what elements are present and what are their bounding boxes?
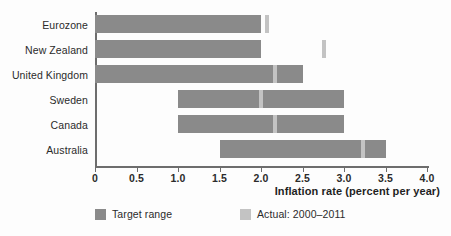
bar-target-range-new-zealand: [95, 40, 261, 58]
x-axis-tick-label-0: 0: [92, 172, 98, 184]
x-axis-tick-label-3-5: 3.5: [378, 172, 393, 184]
bar-row-sweden: [0, 90, 451, 108]
bar-target-range-eurozone: [95, 15, 261, 33]
bar-target-range-united-kingdom: [95, 65, 303, 83]
bar-row-eurozone: [0, 15, 451, 33]
x-axis-tick-label-1-0: 1.0: [170, 172, 185, 184]
bar-actual-marker-eurozone: [265, 15, 269, 33]
x-axis-tick-label-1-5: 1.5: [212, 172, 227, 184]
x-axis-tick-label-0-5: 0.5: [129, 172, 144, 184]
legend-item-actual: Actual: 2000–2011: [240, 206, 346, 222]
bar-row-australia: [0, 140, 451, 158]
legend-swatch-actual-icon: [240, 209, 251, 220]
legend-label-actual: Actual: 2000–2011: [257, 208, 346, 220]
bar-actual-marker-united-kingdom: [273, 65, 277, 83]
x-axis-tick-label-4-0: 4.0: [419, 172, 434, 184]
x-axis-tick-label-2-5: 2.5: [295, 172, 310, 184]
x-axis-tick-label-3-0: 3.0: [336, 172, 351, 184]
bar-actual-marker-canada: [273, 115, 277, 133]
bar-actual-marker-sweden: [259, 90, 263, 108]
x-axis-title: Inflation rate (percent per year): [0, 185, 440, 197]
x-axis-tick-label-2-0: 2.0: [253, 172, 268, 184]
bar-row-canada: [0, 115, 451, 133]
bar-row-united-kingdom: [0, 65, 451, 83]
bar-row-new-zealand: [0, 40, 451, 58]
inflation-rate-chart: Eurozone New Zealand United Kingdom Swed…: [0, 0, 451, 236]
legend-item-target-range: Target range: [95, 206, 172, 222]
chart-legend: Target range Actual: 2000–2011: [95, 206, 435, 222]
bar-actual-marker-australia: [361, 140, 365, 158]
bar-actual-marker-new-zealand: [322, 40, 326, 58]
legend-label-target-range: Target range: [112, 208, 172, 220]
bar-target-range-canada: [178, 115, 344, 133]
legend-swatch-target-range-icon: [95, 209, 106, 220]
